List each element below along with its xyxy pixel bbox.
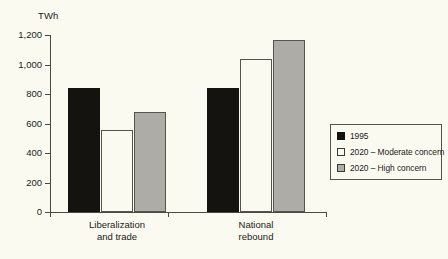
y-axis-tick xyxy=(45,65,51,66)
y-axis-tick-label: 1,200 xyxy=(0,29,42,40)
x-axis-group-label: National rebound xyxy=(196,219,316,243)
legend-label: 2020 – Moderate concern xyxy=(350,147,444,157)
legend-swatch-high-icon xyxy=(337,164,345,172)
x-axis-line xyxy=(50,212,326,213)
bar xyxy=(207,88,239,212)
y-axis-tick-label: 1,000 xyxy=(0,59,42,70)
y-axis-unit-label: TWh xyxy=(38,10,58,21)
y-axis-tick-label: 400 xyxy=(0,147,42,158)
bar xyxy=(68,88,100,212)
y-axis-tick-label: 800 xyxy=(0,88,42,99)
y-axis-tick-label: 0 xyxy=(0,206,42,217)
bar xyxy=(273,40,305,212)
y-axis-tick xyxy=(45,153,51,154)
legend-swatch-moderate-icon xyxy=(337,148,345,156)
bar xyxy=(240,59,272,212)
x-axis-group-label: Liberalization and trade xyxy=(57,219,177,243)
y-axis-tick xyxy=(45,124,51,125)
legend-item[interactable]: 1995 xyxy=(337,131,436,141)
x-axis-tick xyxy=(168,212,169,217)
legend-item[interactable]: 2020 – Moderate concern xyxy=(337,147,436,157)
x-axis-tick xyxy=(50,212,51,217)
legend-label: 1995 xyxy=(350,131,368,141)
x-axis-tick xyxy=(326,212,327,217)
legend: 1995 2020 – Moderate concern 2020 – High… xyxy=(330,124,442,180)
y-axis-tick xyxy=(45,35,51,36)
y-axis-tick xyxy=(45,94,51,95)
y-axis-tick xyxy=(45,183,51,184)
bar xyxy=(134,112,166,212)
y-axis-tick-label: 200 xyxy=(0,177,42,188)
legend-item[interactable]: 2020 – High concern xyxy=(337,163,436,173)
legend-label: 2020 – High concern xyxy=(350,163,426,173)
bar-chart: TWh 02004006008001,0001,200 Liberalizati… xyxy=(0,0,448,259)
y-axis-tick-label: 600 xyxy=(0,118,42,129)
legend-swatch-1995-icon xyxy=(337,132,345,140)
bar xyxy=(101,130,133,212)
